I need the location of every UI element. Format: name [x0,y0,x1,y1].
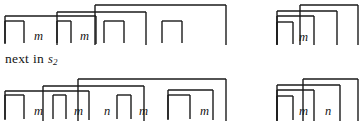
bottom-row-bottom-left-cluster-bracket-1 [5,95,24,119]
caption-word-in: in [33,51,44,66]
top-left-cluster-label-m-0: m [34,30,43,43]
bottom-left-cluster-label-m-0: m [34,105,43,118]
top-row-top-left-cluster-bracket-7 [162,21,182,43]
top-row-top-left-cluster-bracket-6 [95,5,226,45]
top-row-top-left-cluster-bracket-3 [57,21,71,43]
top-row-top-right-cluster-bracket-1 [277,22,293,44]
bottom-right-cluster-label-n-1: n [325,105,331,118]
bottom-left-cluster-label-m-1: m [74,105,83,118]
top-row-top-right-cluster-bracket-2 [277,16,314,45]
bottom-row-bottom-right-cluster-bracket-1 [277,96,293,120]
bottom-row-bottom-left-cluster-bracket-7 [168,95,190,119]
bottom-left-cluster-label-m-3: m [139,105,148,118]
bottom-row-bottom-left-cluster-bracket-5 [117,95,131,119]
bottom-right-cluster-label-m-0: m [299,105,308,118]
top-row-top-left-cluster-bracket-5 [104,21,124,43]
figure-page: nextins2 mmmmmnmmmn [0,0,362,123]
top-right-cluster-label-m-0: m [299,31,308,44]
caption-next-in-s2: nextins2 [5,51,58,70]
bottom-left-cluster-label-m-4: m [200,105,209,118]
top-row-top-left-cluster-bracket-1 [5,21,24,43]
bottom-row-bottom-right-cluster-bracket-2 [277,90,314,121]
caption-word-next: next [5,51,29,66]
top-left-cluster-label-m-1: m [80,30,89,43]
bottom-left-cluster-label-n-2: n [104,105,110,118]
caption-subscript-2: 2 [53,57,58,67]
bottom-row-bottom-left-cluster-bracket-3 [53,95,66,119]
